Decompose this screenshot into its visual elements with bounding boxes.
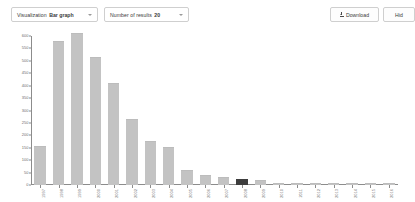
y-axis-tick-mark bbox=[29, 160, 32, 161]
x-axis-tick-label: 1998 bbox=[60, 189, 64, 198]
y-axis-tick-mark bbox=[29, 98, 32, 99]
y-axis-tick-mark bbox=[29, 73, 32, 74]
hide-button[interactable]: Hid bbox=[383, 7, 415, 22]
x-axis-tick-mark bbox=[169, 185, 170, 188]
x-axis-tick-mark bbox=[260, 185, 261, 188]
x-axis-tick-label: 2014 bbox=[354, 189, 358, 198]
y-axis-tick-mark bbox=[29, 135, 32, 136]
bar[interactable] bbox=[126, 119, 137, 185]
plot-area: 050100150200250300350400450500550600 199… bbox=[31, 36, 398, 185]
y-axis-tick-mark bbox=[29, 36, 32, 37]
x-axis-tick-mark bbox=[95, 185, 96, 188]
download-icon bbox=[340, 12, 344, 17]
x-axis-tick-mark bbox=[59, 185, 60, 188]
number-of-results-dropdown[interactable]: Number of results 20 bbox=[104, 7, 189, 22]
x-axis-tick-mark bbox=[150, 185, 151, 188]
x-axis-tick-label: 1997 bbox=[42, 189, 46, 198]
x-axis-tick-label: 2016 bbox=[390, 189, 394, 198]
bar-chart: 050100150200250300350400450500550600 199… bbox=[0, 28, 408, 202]
x-axis-tick-label: 2006 bbox=[207, 189, 211, 198]
y-axis-tick-mark bbox=[29, 48, 32, 49]
x-axis-tick-mark bbox=[77, 185, 78, 188]
bar[interactable] bbox=[200, 175, 211, 185]
x-axis-tick-label: 2009 bbox=[262, 189, 266, 198]
x-axis-tick-mark bbox=[114, 185, 115, 188]
x-axis-tick-mark bbox=[242, 185, 243, 188]
x-axis-tick-mark bbox=[205, 185, 206, 188]
bar[interactable] bbox=[53, 41, 64, 185]
hide-button-label: Hid bbox=[395, 12, 403, 18]
y-axis-tick-mark bbox=[29, 85, 32, 86]
y-axis-tick-mark bbox=[29, 110, 32, 111]
y-axis-tick-mark bbox=[29, 172, 32, 173]
x-axis-tick-mark bbox=[132, 185, 133, 188]
bar[interactable] bbox=[108, 83, 119, 185]
y-axis-tick-mark bbox=[29, 122, 32, 123]
x-axis-tick-mark bbox=[334, 185, 335, 188]
y-axis-tick-mark bbox=[29, 185, 32, 186]
y-axis-tick-mark bbox=[29, 60, 32, 61]
bar[interactable] bbox=[90, 57, 101, 185]
download-button[interactable]: Download bbox=[330, 7, 379, 22]
x-axis-tick-label: 2008 bbox=[244, 189, 248, 198]
bar[interactable] bbox=[218, 177, 229, 185]
number-of-results-dropdown-label: Number of results bbox=[105, 12, 152, 18]
x-axis-tick-label: 2003 bbox=[152, 189, 156, 198]
x-axis-tick-mark bbox=[279, 185, 280, 188]
x-axis-tick-label: 2007 bbox=[225, 189, 229, 198]
x-axis-tick-label: 2010 bbox=[280, 189, 284, 198]
x-axis-tick-mark bbox=[352, 185, 353, 188]
x-axis-tick-label: 2013 bbox=[335, 189, 339, 198]
bar-series bbox=[31, 36, 398, 185]
chart-toolbar: Visualization Bar graph Number of result… bbox=[0, 0, 408, 28]
bar[interactable] bbox=[34, 146, 45, 185]
visualization-dropdown[interactable]: Visualization Bar graph bbox=[11, 7, 98, 22]
x-axis-tick-mark bbox=[40, 185, 41, 188]
x-axis-tick-label: 2004 bbox=[170, 189, 174, 198]
bar[interactable] bbox=[181, 170, 192, 185]
x-axis-tick-mark bbox=[370, 185, 371, 188]
x-axis-tick-mark bbox=[187, 185, 188, 188]
x-axis-tick-label: 2005 bbox=[189, 189, 193, 198]
download-button-label: Download bbox=[346, 12, 369, 18]
x-axis-tick-label: 2002 bbox=[134, 189, 138, 198]
x-axis-tick-mark bbox=[297, 185, 298, 188]
chevron-down-icon bbox=[179, 14, 183, 16]
x-axis-tick-mark bbox=[315, 185, 316, 188]
x-axis-tick-label: 2015 bbox=[372, 189, 376, 198]
bar[interactable] bbox=[71, 33, 82, 185]
bar[interactable] bbox=[163, 147, 174, 185]
bar[interactable] bbox=[145, 141, 156, 185]
visualization-dropdown-value: Bar graph bbox=[47, 12, 74, 18]
x-axis-tick-label: 2001 bbox=[115, 189, 119, 198]
x-axis-tick-mark bbox=[389, 185, 390, 188]
x-axis-tick-label: 2000 bbox=[97, 189, 101, 198]
chevron-down-icon bbox=[88, 14, 92, 16]
visualization-dropdown-label: Visualization bbox=[12, 12, 47, 18]
x-axis-tick-label: 2012 bbox=[317, 189, 321, 198]
x-axis-tick-mark bbox=[224, 185, 225, 188]
x-axis-tick-label: 1999 bbox=[78, 189, 82, 198]
number-of-results-dropdown-value: 20 bbox=[152, 12, 160, 18]
x-axis-tick-label: 2011 bbox=[299, 189, 303, 198]
y-axis-tick-mark bbox=[29, 147, 32, 148]
